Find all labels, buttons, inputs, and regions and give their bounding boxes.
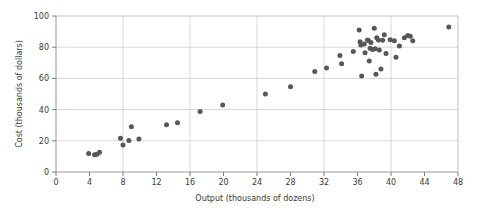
data-point [382,32,387,37]
data-point [136,137,141,142]
data-point [129,124,134,129]
x-tick-label: 44 [419,178,429,187]
data-point [383,51,388,56]
x-tick-label: 32 [319,178,329,187]
data-point [339,61,344,66]
data-point [408,34,413,39]
x-tick-label: 16 [185,178,195,187]
data-point [164,122,169,127]
data-point [97,150,102,155]
x-tick-label: 28 [285,178,295,187]
data-point [198,109,203,114]
gridlines-group [56,16,458,172]
x-tick-label: 40 [386,178,396,187]
data-point [359,73,364,78]
data-point [378,67,383,72]
data-point [351,49,356,54]
y-tick-label: 40 [39,106,49,115]
data-point [121,143,126,148]
x-tick-label: 0 [53,178,58,187]
x-axis-title: Output (thousands of dozens) [195,194,314,203]
x-tick-label: 48 [453,178,463,187]
data-point [446,25,451,30]
data-point [363,50,368,55]
y-tick-label: 100 [34,12,49,21]
x-tick-label: 8 [120,178,125,187]
x-axis-tick-labels: 04812162024283236404448 [53,178,463,187]
x-tick-label: 12 [151,178,161,187]
data-point [220,103,225,108]
data-point [367,58,372,63]
y-tick-label: 80 [39,43,49,52]
scatter-plot-figure: 04812162024283236404448 020406080100 Out… [0,0,484,210]
data-point [337,53,342,58]
data-point [324,66,329,71]
data-point [175,120,180,125]
tickmarks-group [52,16,458,176]
data-point [410,38,415,43]
scatter-plot-svg: 04812162024283236404448 020406080100 Out… [0,0,484,210]
data-point [397,43,402,48]
y-axis-tick-labels: 020406080100 [34,12,49,177]
y-tick-label: 60 [39,74,49,83]
data-point [377,48,382,53]
y-axis-title: Cost (thousands of dollars) [15,40,24,148]
data-point [312,69,317,74]
x-tick-label: 20 [218,178,228,187]
x-tick-label: 4 [87,178,92,187]
x-tick-label: 36 [352,178,362,187]
data-point [362,41,367,46]
y-tick-label: 20 [39,137,49,146]
data-point [263,92,268,97]
data-point [394,55,399,60]
y-tick-label: 0 [44,168,49,177]
data-point [357,28,362,33]
data-point [86,151,91,156]
data-point [388,37,393,42]
data-point [126,138,131,143]
data-points-group [86,25,451,158]
data-point [118,136,123,141]
data-point [392,38,397,43]
data-point [368,40,373,45]
data-point [372,26,377,31]
data-point [288,84,293,89]
data-point [373,72,378,77]
x-tick-label: 24 [252,178,262,187]
data-point [380,38,385,43]
